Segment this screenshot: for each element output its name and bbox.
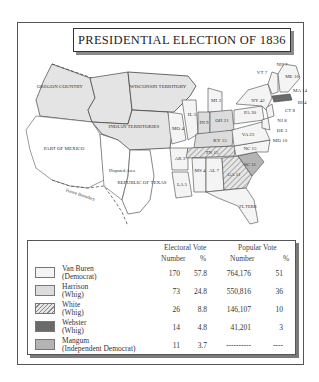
label-oh: OH 21 — [215, 118, 229, 123]
candidate-party: (Democrat) — [62, 272, 97, 281]
ev-number: 14 — [173, 323, 181, 332]
pv-percent: 36 — [276, 287, 284, 296]
label-ar: AR 3 — [175, 156, 186, 161]
label-ny: NY 42 — [251, 98, 265, 103]
label-va: VA 23 — [242, 132, 255, 137]
swatch-harrison — [35, 285, 55, 296]
map-title-box: PRESIDENTIAL ELECTION OF 1836 — [73, 28, 291, 52]
legend-row-harrison: Harrison(Whig) 73 24.8 550,816 36 — [28, 282, 295, 301]
ev-number: 11 — [173, 341, 180, 350]
ev-percent: 24.8 — [194, 287, 207, 296]
swatch-van-buren — [35, 267, 55, 278]
header-ev-percent: % — [200, 254, 206, 263]
region-oregon — [36, 64, 95, 122]
pv-number: 764,176 — [227, 269, 251, 278]
header-ev-number: Number — [161, 254, 186, 263]
ev-percent: 57.8 — [194, 269, 207, 278]
label-ms: MS 4 — [195, 168, 206, 173]
label-vt: VT 7 — [257, 70, 268, 75]
label-de: DE 3 — [277, 128, 288, 133]
label-la: LA 5 — [177, 182, 188, 187]
candidate-party: (Whig) — [62, 326, 84, 335]
label-ri: RI 4 — [298, 100, 307, 105]
label-ga: GA 11 — [227, 172, 241, 177]
ev-percent: 3.7 — [198, 341, 207, 350]
label-disputed: Disputed Area — [109, 168, 135, 173]
pv-percent: 3 — [279, 323, 283, 332]
legend-row-white: White(Whig) 26 8.8 146,107 10 — [28, 300, 295, 319]
label-wisconsin: WISCONSIN TERRITORY — [130, 84, 187, 89]
pv-number: 146,107 — [227, 305, 251, 314]
swatch-white — [35, 303, 55, 314]
label-mo: MO 4 — [172, 126, 184, 131]
pv-number: 550,816 — [227, 287, 251, 296]
header-pv-number: Number — [230, 254, 255, 263]
swatch-webster — [35, 321, 55, 332]
legend-row-mangum: Mangum(Independent Democrat) 11 3.7 ----… — [28, 336, 295, 355]
pv-number: 41,201 — [230, 323, 251, 332]
pv-percent: 10 — [276, 305, 284, 314]
label-mexico: PART OF MEXICO — [44, 146, 85, 151]
candidate-party: (Independent Democrat) — [62, 344, 136, 353]
ev-number: 73 — [173, 287, 181, 296]
label-indian: INDIAN TERRITORIES — [109, 124, 160, 129]
legend-row-webster: Webster(Whig) 14 4.8 41,201 3 — [28, 318, 295, 337]
label-texas: REPUBLIC OF TEXAS — [117, 180, 166, 185]
ev-number: 170 — [169, 269, 180, 278]
pv-number: ---------- — [226, 341, 251, 350]
label-ct: CT 8 — [285, 108, 296, 113]
label-il: IL 5 — [188, 112, 197, 117]
label-in: IN 9 — [199, 120, 209, 125]
header-pv-percent: % — [283, 254, 289, 263]
label-nh: NH 7 — [277, 62, 288, 67]
legend-table: Electoral Vote Popular Vote Number % Num… — [27, 240, 296, 355]
label-al: AL 7 — [209, 168, 220, 173]
label-pa: PA 30 — [244, 110, 256, 115]
label-sc: SC 11 — [244, 162, 257, 167]
label-oregon: OREGON COUNTRY — [37, 84, 83, 89]
ev-percent: 8.8 — [198, 305, 207, 314]
label-future-boundary: Future Boundary — [65, 187, 96, 201]
label-mi: MI 3 — [211, 98, 221, 103]
legend-row-van-buren: Van Buren(Democrat) 170 57.8 764,176 51 — [28, 264, 295, 283]
label-tn: TN 15 — [206, 150, 219, 155]
label-nc: NC 15 — [243, 146, 257, 151]
map-title: PRESIDENTIAL ELECTION OF 1836 — [78, 33, 286, 48]
label-ma: MA 14 — [293, 88, 308, 93]
candidate-party: (Whig) — [62, 308, 84, 317]
region-mexico — [26, 116, 104, 188]
pv-percent: 51 — [276, 269, 284, 278]
header-electoral-vote: Electoral Vote — [164, 243, 206, 252]
ev-percent: 4.8 — [198, 323, 207, 332]
label-md: MD 10 — [273, 138, 288, 143]
label-fl-terr: FL TERR — [239, 204, 257, 209]
label-ky: KY 15 — [213, 138, 227, 143]
label-nj: NJ 8 — [277, 118, 287, 123]
header-popular-vote: Popular Vote — [238, 243, 277, 252]
candidate-party: (Whig) — [62, 290, 84, 299]
label-me: ME 10 — [285, 74, 299, 79]
swatch-mangum — [35, 339, 55, 350]
ev-number: 26 — [173, 305, 181, 314]
pv-percent: ---- — [273, 341, 283, 350]
